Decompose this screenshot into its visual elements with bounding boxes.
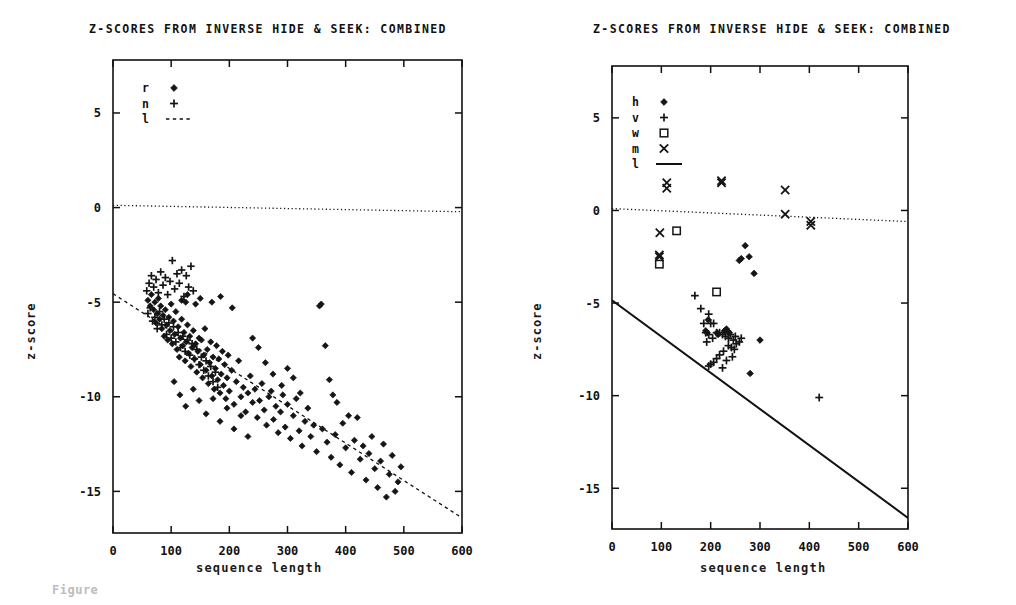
data-point-r [233, 379, 239, 385]
data-point-r [218, 293, 224, 299]
data-point-h [747, 370, 754, 377]
right-x-tick-label: 0 [608, 540, 615, 554]
data-point-r [188, 363, 194, 369]
data-point-r [182, 358, 188, 364]
data-point-r [245, 433, 251, 439]
data-point-r [261, 407, 267, 413]
left-x-tick-label: 600 [451, 544, 473, 558]
data-point-r [280, 392, 286, 398]
data-point-r [308, 433, 314, 439]
right-x-tick-label: 500 [848, 540, 870, 554]
data-point-r [247, 373, 253, 379]
data-point-r [324, 439, 330, 445]
data-point-r [313, 449, 319, 455]
panel-right-y-axis-label: z-score [530, 302, 544, 360]
data-point-r [383, 494, 389, 500]
right-trend-line-solid [612, 300, 908, 518]
data-point-r [158, 303, 164, 309]
right-legend-label-v: v [632, 111, 639, 125]
data-point-r [245, 390, 251, 396]
left-x-tick-label: 0 [109, 544, 116, 558]
data-point-r [148, 292, 154, 298]
right-zero-line [612, 209, 908, 222]
data-point-r [262, 360, 268, 366]
data-point-r [343, 445, 349, 451]
data-point-r [357, 456, 363, 462]
data-point-r [380, 441, 386, 447]
data-point-r [256, 397, 262, 403]
data-point-r [395, 479, 401, 485]
data-point-r [296, 428, 302, 434]
left-zero-line [113, 205, 462, 211]
data-point-r [229, 305, 235, 311]
data-point-r [190, 386, 196, 392]
right-legend-marker-v [660, 114, 668, 122]
panel-right-plot-area: 010020030040050060050-5-10-15hvwml [508, 0, 1016, 605]
data-point-r [231, 426, 237, 432]
panel-right-x-axis-label: sequence length [700, 561, 826, 575]
data-point-r [330, 392, 336, 398]
data-point-r [167, 327, 173, 333]
right-plot-frame [612, 66, 908, 529]
data-point-r [223, 396, 229, 402]
right-y-tick-label: 0 [593, 204, 600, 218]
data-point-r [222, 362, 228, 368]
right-legend-label-m: m [632, 142, 639, 156]
data-point-r [192, 301, 198, 307]
data-point-r [190, 327, 196, 333]
data-point-r [345, 413, 351, 419]
data-point-r [254, 414, 260, 420]
left-x-tick-label: 100 [160, 544, 182, 558]
data-point-r [243, 409, 249, 415]
data-point-r [297, 390, 303, 396]
data-point-w [673, 227, 680, 234]
data-point-r [145, 297, 151, 303]
right-legend-marker-h [661, 99, 668, 106]
data-point-r [266, 394, 272, 400]
data-point-r [305, 405, 311, 411]
data-point-r [279, 382, 285, 388]
right-y-tick-label: -5 [586, 297, 600, 311]
data-point-r [171, 379, 177, 385]
data-point-r [282, 424, 288, 430]
data-point-r [372, 466, 378, 472]
data-point-r [194, 369, 200, 375]
right-y-tick-label: 5 [593, 111, 600, 125]
data-point-r [284, 401, 290, 407]
data-point-r [332, 432, 338, 438]
panel-left-x-axis-label: sequence length [196, 561, 322, 575]
right-y-tick-label: -15 [578, 482, 600, 496]
right-x-tick-label: 400 [798, 540, 820, 554]
data-point-r [168, 301, 174, 307]
data-point-r [176, 354, 182, 360]
data-point-r [219, 348, 225, 354]
right-legend-marker-w [660, 129, 668, 137]
data-point-r [252, 386, 258, 392]
data-point-r [224, 375, 230, 381]
left-y-tick-label: -15 [79, 485, 101, 499]
left-legend-label-r: r [142, 81, 149, 95]
chart-panel-left: Z-SCORES FROM INVERSE HIDE & SEEK: COMBI… [0, 0, 508, 605]
data-point-r [275, 430, 281, 436]
data-point-r [240, 384, 246, 390]
left-y-tick-label: -10 [79, 390, 101, 404]
right-legend-square-icon [660, 129, 668, 137]
data-point-r [302, 418, 308, 424]
data-point-r [284, 365, 290, 371]
left-x-tick-label: 500 [393, 544, 415, 558]
data-point-r [293, 396, 299, 402]
data-point-r [184, 322, 190, 328]
data-point-r [326, 377, 332, 383]
right-series-v [691, 292, 823, 402]
data-point-r [299, 443, 305, 449]
data-point-r [337, 462, 343, 468]
data-point-r [334, 399, 340, 405]
data-point-r [366, 450, 372, 456]
data-point-r [287, 435, 293, 441]
data-point-r [202, 326, 208, 332]
data-point-r [311, 422, 317, 428]
left-plot-frame [113, 60, 462, 533]
data-point-r [250, 399, 256, 405]
data-point-r [224, 405, 230, 411]
left-legend-marker-r [171, 85, 178, 92]
